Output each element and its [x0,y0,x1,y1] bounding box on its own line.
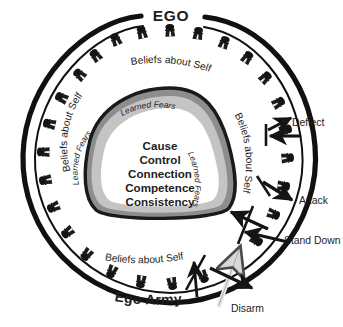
soldier-icon [196,269,210,284]
soldier-icon [72,67,88,83]
soldier-icon [135,275,147,289]
soldier-icon [37,147,50,157]
belief-label-top: Beliefs about Self [130,54,213,74]
ego-army-diagram: EGO Ego Army Beliefs about Self Beliefs … [0,0,343,327]
soldier-icon [271,95,287,110]
belief-label-bottom: Beliefs about Self [104,250,184,265]
soldier-icon [192,26,203,40]
page-title: EGO [153,7,189,24]
disarm-label: Disarm [231,303,264,314]
deflect-label: Deflect [292,117,324,128]
soldier-icon [258,70,274,86]
soldier-icon [218,35,231,50]
soldier-icon [240,49,255,65]
attack-label: Attack [299,195,329,206]
core-value-consistency: Consistency [126,195,195,208]
core-value-control: Control [139,153,180,166]
soldier-icon [109,32,123,47]
soldier-icon [42,118,56,130]
core-value-cause: Cause [143,139,178,152]
soldier-icon [277,181,290,192]
core-value-competence: Competence [125,181,195,194]
core-value-connection: Connection [128,167,192,180]
soldier-icon [46,200,61,214]
soldier-icon [165,24,175,37]
soldier-icon [281,152,294,163]
stand-down-label: Stand Down [284,235,341,246]
soldier-icon [266,208,281,221]
soldier-icon [38,174,52,186]
soldier-icon [166,277,178,291]
soldier-icon [54,91,70,105]
